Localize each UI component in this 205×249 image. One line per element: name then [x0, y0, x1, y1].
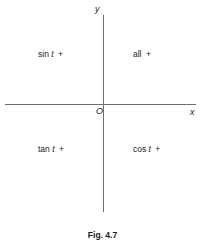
y-axis-label: y: [95, 4, 100, 14]
figure-container: y x O sin t + all + tan t + cos t + Fig.…: [0, 0, 205, 249]
y-axis-line: [103, 15, 104, 212]
quadrant-label-first: all +: [133, 49, 151, 60]
quadrant-label-fourth: cos t +: [133, 144, 160, 155]
quadrant-label-second: sin t +: [38, 49, 63, 60]
quadrant-label-third: tan t +: [38, 144, 64, 155]
origin-label: O: [96, 106, 103, 116]
x-axis-line: [5, 104, 196, 105]
figure-caption: Fig. 4.7: [0, 230, 205, 241]
x-axis-label: x: [190, 107, 195, 117]
